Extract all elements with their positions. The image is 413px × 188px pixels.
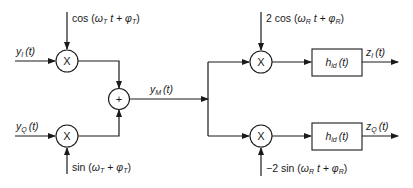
svg-text:cos (ωT t + φT): cos (ωT t + φT) [72, 12, 140, 25]
input-yQ: yQ(t) [15, 120, 55, 136]
output-zQ: zQ(t) [362, 120, 398, 136]
svg-text:zQ(t): zQ(t) [365, 120, 389, 134]
quadrature-block-diagram: yI(t) cos (ωT t + φT) X yQ(t) sin (ωT + … [0, 0, 413, 188]
multiplier-rx-q: X [250, 125, 272, 147]
svg-text:yQ(t): yQ(t) [15, 120, 39, 134]
filter-bottom: hid(t) [312, 123, 362, 150]
svg-text:yM(t): yM(t) [149, 83, 173, 96]
carrier-tx-cos: cos (ωT t + φT) [67, 12, 140, 49]
carrier-rx-cos: 2 cos (ωR t + φR) [261, 12, 344, 50]
svg-text:2 cos (ωR t + φR): 2 cos (ωR t + φR) [266, 12, 344, 25]
plus-icon: + [116, 93, 122, 105]
svg-text:zI(t): zI(t) [365, 46, 385, 59]
multiply-icon: X [257, 130, 265, 142]
carrier-rx-sin: −2 sin (ωR t + φR) [261, 148, 347, 176]
svg-text:sin (ωT + φT): sin (ωT + φT) [72, 161, 131, 174]
multiplier-tx-i: X [56, 50, 78, 72]
output-zI: zI(t) [362, 46, 398, 62]
wire-tx-q-to-adder [78, 110, 119, 136]
wire-tx-i-to-adder [78, 61, 119, 88]
multiply-icon: X [257, 56, 265, 68]
svg-text:yI(t): yI(t) [15, 45, 35, 58]
signal-yM: yM(t) [130, 83, 208, 99]
multiplier-rx-i: X [250, 51, 272, 73]
carrier-tx-sin: sin (ωT + φT) [67, 148, 131, 174]
multiply-icon: X [63, 130, 71, 142]
svg-text:−2 sin (ωR t + φR): −2 sin (ωR t + φR) [266, 162, 347, 175]
multiply-icon: X [63, 55, 71, 67]
adder: + [109, 89, 130, 110]
input-yI: yI(t) [15, 45, 55, 61]
multiplier-tx-q: X [56, 125, 78, 147]
filter-top: hid(t) [312, 49, 362, 76]
